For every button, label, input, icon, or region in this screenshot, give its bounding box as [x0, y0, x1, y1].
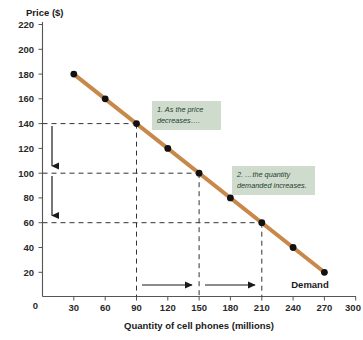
data-point-60-160: [102, 95, 109, 102]
x-tick-label-120: 120: [160, 302, 176, 313]
data-point-210-60: [258, 219, 265, 226]
quantity-increase-callout-line2: demanded increases.: [237, 181, 307, 190]
data-point-240-40: [290, 244, 297, 251]
y-tick-label-120: 120: [18, 143, 34, 154]
y-tick-label-80: 80: [23, 192, 34, 203]
demand-curve-chart: Price ($) 220 200 180 160 140 120 100 80…: [0, 0, 363, 340]
y-tick-label-60: 60: [23, 217, 34, 228]
x-tick-label-30: 30: [69, 302, 80, 313]
y-tick-label-100: 100: [18, 168, 34, 179]
x-axis-ticks: [74, 297, 356, 301]
x-axis-title: Quantity of cell phones (millions): [124, 320, 274, 331]
y-tick-label-180: 180: [18, 69, 34, 80]
quantity-increase-callout: 2. …the quantity demanded increases.: [232, 166, 315, 195]
demand-series-label: Demand: [291, 279, 329, 290]
data-point-270-20: [321, 269, 328, 276]
data-point-180-80: [227, 195, 234, 202]
guide-lines: [43, 124, 262, 297]
price-decrease-callout: 1. As the price decreases….: [152, 101, 221, 130]
y-axis-ticks: [39, 25, 43, 273]
data-point-120-120: [164, 145, 171, 152]
y-tick-label-200: 200: [18, 44, 34, 55]
x-tick-label-180: 180: [222, 302, 238, 313]
y-axis-title: Price ($): [26, 7, 64, 18]
y-tick-label-20: 20: [23, 267, 34, 278]
y-tick-label-0: 0: [33, 300, 38, 311]
data-point-90-140: [133, 120, 140, 127]
x-tick-label-300: 300: [345, 302, 361, 313]
x-tick-label-90: 90: [131, 302, 142, 313]
x-tick-label-60: 60: [100, 302, 111, 313]
quantity-increase-callout-line1: 2. …the quantity: [236, 170, 291, 179]
y-tick-label-40: 40: [23, 242, 34, 253]
x-tick-label-150: 150: [191, 302, 207, 313]
x-tick-label-270: 270: [316, 302, 332, 313]
price-decrease-callout-line2: decreases….: [157, 116, 200, 125]
y-tick-label-160: 160: [18, 93, 34, 104]
x-tick-label-210: 210: [254, 302, 270, 313]
demand-curve-figure: Price ($) 220 200 180 160 140 120 100 80…: [0, 0, 363, 340]
data-point-30-180: [70, 71, 77, 78]
price-decrease-callout-line1: 1. As the price: [157, 105, 203, 114]
y-tick-label-220: 220: [18, 19, 34, 30]
y-tick-label-140: 140: [18, 118, 34, 129]
x-tick-label-240: 240: [285, 302, 301, 313]
data-point-150-100: [196, 170, 203, 177]
